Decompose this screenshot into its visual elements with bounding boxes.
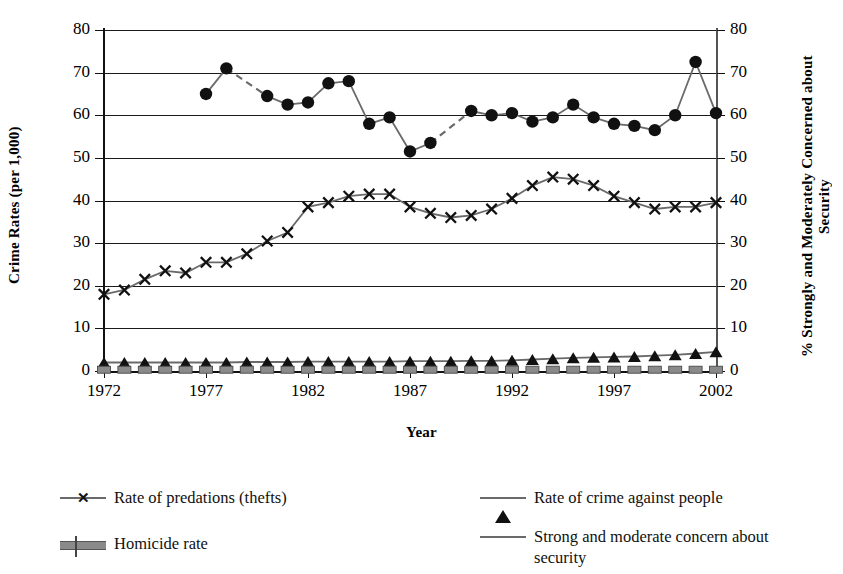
chart-legend: ✕ Rate of predations (thefts) Homicide r… bbox=[0, 487, 843, 574]
bar-marker bbox=[302, 366, 315, 373]
bar-marker bbox=[669, 366, 682, 373]
x-marker bbox=[242, 249, 252, 259]
bar-marker bbox=[526, 366, 539, 373]
bar-marker bbox=[444, 366, 457, 373]
series-line bbox=[104, 177, 716, 294]
circle-marker bbox=[465, 105, 477, 117]
circle-marker bbox=[526, 115, 538, 127]
circle-marker bbox=[322, 77, 334, 89]
bar-marker bbox=[118, 366, 131, 373]
x-marker bbox=[486, 204, 496, 214]
x-marker bbox=[588, 180, 598, 190]
circle-marker-icon bbox=[480, 529, 526, 545]
circle-marker bbox=[424, 137, 436, 149]
bar-marker bbox=[689, 366, 702, 373]
bar-marker bbox=[648, 366, 661, 373]
circle-marker bbox=[608, 118, 620, 130]
series-line-dashed bbox=[226, 68, 267, 96]
bar-marker bbox=[465, 366, 478, 373]
bar-marker bbox=[159, 366, 172, 373]
x-marker bbox=[282, 227, 292, 237]
circle-marker bbox=[710, 107, 722, 119]
bar-marker bbox=[404, 366, 417, 373]
series-line-dashed bbox=[430, 111, 471, 143]
bar-marker bbox=[179, 366, 192, 373]
x-marker bbox=[405, 202, 415, 212]
bar-marker bbox=[628, 366, 641, 373]
x-marker bbox=[609, 191, 619, 201]
triangle-marker-icon bbox=[480, 490, 526, 506]
bar-marker bbox=[322, 366, 335, 373]
bar-marker bbox=[424, 366, 437, 373]
circle-marker bbox=[547, 111, 559, 123]
bar-marker bbox=[383, 366, 396, 373]
circle-marker bbox=[363, 118, 375, 130]
bar-marker bbox=[220, 366, 233, 373]
bar-marker bbox=[567, 366, 580, 373]
legend-item-crime-against-people: Rate of crime against people bbox=[480, 487, 723, 509]
bar-marker bbox=[342, 366, 355, 373]
circle-marker bbox=[383, 111, 395, 123]
legend-label: Rate of predations (thefts) bbox=[114, 488, 287, 509]
legend-label: Homicide rate bbox=[114, 534, 208, 555]
circle-marker bbox=[506, 107, 518, 119]
bar-marker bbox=[608, 366, 621, 373]
circle-marker bbox=[302, 96, 314, 108]
circle-marker bbox=[587, 111, 599, 123]
circle-marker bbox=[669, 109, 681, 121]
bar-marker bbox=[485, 366, 498, 373]
bar-marker bbox=[363, 366, 376, 373]
circle-marker bbox=[485, 109, 497, 121]
bar-marker bbox=[546, 366, 559, 373]
legend-label: Rate of crime against people bbox=[534, 488, 723, 509]
circle-marker bbox=[689, 56, 701, 68]
x-marker bbox=[507, 193, 517, 203]
bar-marker bbox=[138, 366, 151, 373]
legend-item-homicide: Homicide rate bbox=[60, 533, 208, 555]
circle-marker bbox=[404, 145, 416, 157]
x-marker bbox=[527, 180, 537, 190]
x-marker-icon: ✕ bbox=[60, 490, 106, 506]
circle-marker bbox=[281, 98, 293, 110]
x-marker bbox=[140, 274, 150, 284]
thick-bar-marker-icon bbox=[60, 536, 106, 552]
bar-marker bbox=[506, 366, 519, 373]
circle-marker bbox=[628, 120, 640, 132]
circle-marker bbox=[567, 98, 579, 110]
chart-figure: Crime Rates (per 1,000) % Strongly and M… bbox=[0, 0, 843, 574]
circle-marker bbox=[200, 88, 212, 100]
bar-marker bbox=[200, 366, 213, 373]
x-marker bbox=[262, 236, 272, 246]
bar-marker bbox=[98, 366, 111, 373]
bar-marker bbox=[281, 366, 294, 373]
x-marker bbox=[629, 197, 639, 207]
bar-marker bbox=[710, 366, 723, 373]
circle-marker bbox=[261, 90, 273, 102]
legend-item-predations: ✕ Rate of predations (thefts) bbox=[60, 487, 287, 509]
circle-marker bbox=[343, 75, 355, 87]
bar-marker bbox=[261, 366, 274, 373]
bar-marker bbox=[587, 366, 600, 373]
bar-marker bbox=[240, 366, 253, 373]
circle-marker bbox=[649, 124, 661, 136]
series-line bbox=[267, 81, 430, 151]
legend-label: Strong and moderate concern about securi… bbox=[534, 527, 784, 568]
legend-item-concern: Strong and moderate concern about securi… bbox=[480, 527, 810, 568]
circle-marker bbox=[220, 62, 232, 74]
